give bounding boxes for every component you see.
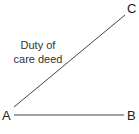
point-label-a: A	[2, 109, 11, 122]
caption-line-2: care deed	[8, 52, 68, 66]
point-label-b: B	[127, 109, 136, 122]
point-label-c: C	[127, 2, 136, 15]
caption-line-1: Duty of	[8, 38, 68, 52]
diagram-canvas	[0, 0, 139, 134]
edge-caption: Duty of care deed	[8, 38, 68, 66]
